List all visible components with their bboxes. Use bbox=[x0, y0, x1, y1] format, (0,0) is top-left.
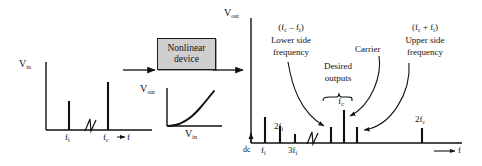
output-tick-2fi: 2fi bbox=[274, 122, 283, 131]
transfer-x-axis-label: Vin bbox=[185, 129, 197, 139]
upper-side-formula: (fc + fi) bbox=[390, 23, 460, 32]
upper-side-line1: Upper side bbox=[386, 36, 464, 45]
desired-outputs-brace-label: fc bbox=[330, 97, 352, 106]
output-tick-3fi: 3fi bbox=[288, 146, 297, 155]
lower-side-leader-line bbox=[288, 62, 324, 126]
output-y-axis-label: Vout bbox=[224, 8, 239, 18]
output-x-axis-label: f bbox=[458, 146, 461, 155]
input-tick-fc: fc bbox=[103, 133, 109, 142]
input-spectrum-axes bbox=[46, 62, 152, 130]
nonlinear-device-line2: device bbox=[158, 54, 215, 65]
output-tick-fi: fi bbox=[261, 146, 266, 155]
nonlinear-device-box[interactable]: Nonlinear device bbox=[157, 38, 216, 70]
output-tick-2fc: 2fc bbox=[415, 115, 425, 124]
lower-side-line1: Lower side bbox=[252, 36, 330, 45]
transfer-curve-path bbox=[168, 91, 214, 126]
figure-canvas: Nonlinear device Vin fi fc f Vout Vin Vo… bbox=[0, 0, 482, 166]
input-axis-break-icon bbox=[85, 119, 96, 131]
upper-side-leader-line bbox=[364, 63, 409, 130]
lower-side-line2: frequency bbox=[252, 48, 330, 57]
transfer-curve-axes bbox=[167, 88, 222, 126]
transfer-y-axis-label: Vout bbox=[140, 84, 155, 94]
upper-side-line2: frequency bbox=[386, 48, 464, 57]
nonlinear-device-line1: Nonlinear bbox=[158, 43, 215, 54]
carrier-label: Carrier bbox=[355, 45, 380, 54]
input-x-axis-label: f bbox=[127, 133, 130, 142]
input-tick-fi: fi bbox=[65, 133, 70, 142]
desired-outputs-line1: Desired bbox=[312, 62, 364, 71]
lower-side-formula: (fc – fi) bbox=[256, 23, 326, 32]
desired-outputs-line2: outputs bbox=[312, 74, 364, 83]
output-origin-label: dc bbox=[243, 146, 251, 154]
output-axis-break-icon bbox=[307, 132, 318, 144]
input-y-axis-label: Vin bbox=[19, 59, 31, 69]
